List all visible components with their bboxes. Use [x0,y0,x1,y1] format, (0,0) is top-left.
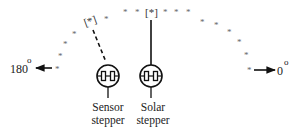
right-direction: 0 o [254,57,289,78]
left-direction: 180 o [10,55,52,76]
arc-star: * [72,29,77,39]
arc-star: * [104,14,109,24]
degree-symbol: o [284,57,289,67]
sensor-stepper: Sensor stepper [91,30,124,127]
solar-stepper: Solar stepper [136,20,169,127]
arc-star: * [63,39,68,49]
arc-star: * [214,20,219,30]
arc-star: * [163,7,168,17]
arc-star: * [174,7,179,17]
solar-position-marker: [*] [145,6,158,18]
sensor-link-dashed [93,30,106,62]
arc-star: * [58,51,63,61]
arc-star: * [237,37,242,47]
degree-symbol: o [27,55,32,65]
sensor-stepper-label-2: stepper [91,114,124,127]
stepper-diagram: * * * * [*] * * * [*] * * * * * * * * * … [0,0,298,134]
arc-star: * [244,50,249,60]
arc-star: * [123,7,128,17]
arc-star: * [55,64,60,74]
arc-star: * [227,27,232,37]
sensor-stepper-label-1: Sensor [92,101,123,113]
arc-star: * [186,7,191,17]
arc-star: * [135,7,140,17]
angle-0-label: 0 [277,64,283,78]
sensor-position-marker: [*] [82,13,98,29]
solar-stepper-label-2: stepper [136,114,169,127]
solar-stepper-label-1: Solar [141,101,165,113]
arc-star: * [200,17,205,27]
arc-star: * [247,65,252,75]
angle-180-label: 180 [10,62,28,76]
